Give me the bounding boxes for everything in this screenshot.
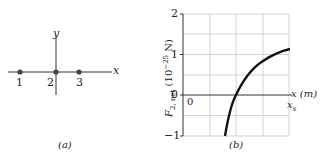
- force-curve: [225, 49, 290, 136]
- caption-a: (a): [58, 139, 72, 150]
- xs-marker-sub: s: [293, 105, 297, 113]
- particle-3-label: 3: [76, 76, 83, 89]
- axis-y-label-a: y: [53, 27, 59, 40]
- x-origin-label: 0: [187, 96, 193, 107]
- particle-2: [53, 69, 58, 74]
- figure-a: [8, 38, 112, 95]
- ylabel-sub: 2, net: [169, 90, 177, 110]
- x-axis-label-text: x (m): [291, 88, 317, 99]
- xs-marker: xs: [287, 99, 296, 113]
- x-axis-label-b: x (m): [291, 88, 317, 99]
- particle-2-label: 2: [47, 76, 54, 89]
- figure-b-grid: [183, 14, 289, 136]
- axis-x-label-a: x: [113, 64, 119, 77]
- y-axis-label-b: F2, net (10−25 N): [162, 8, 177, 148]
- ylabel-units: (10: [163, 70, 174, 87]
- ylabel-units-end: N): [163, 39, 174, 55]
- particle-1-label: 1: [16, 76, 23, 89]
- particle-3: [76, 69, 81, 74]
- ylabel-main: F: [163, 110, 174, 117]
- caption-b: (b): [229, 139, 243, 150]
- particle-1: [17, 69, 22, 74]
- ylabel-exp: −25: [162, 55, 170, 70]
